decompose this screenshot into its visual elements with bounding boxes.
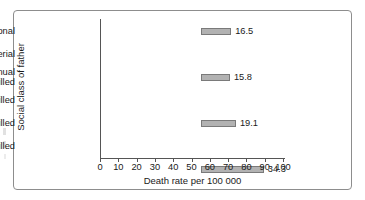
page-edge-artifact [4, 154, 6, 159]
bar [201, 28, 231, 35]
x-axis-line [100, 158, 285, 159]
bar-row: Managerial15.8 [100, 43, 284, 66]
bar-row: Professional16.5 [100, 20, 284, 43]
category-label: Unskilled [0, 141, 15, 152]
bar-row: Manual skilled34.3 [100, 89, 284, 112]
page-edge-artifact [3, 128, 6, 135]
category-label: Non-manual skilled [0, 67, 15, 88]
bar-row: Partly skilled37.8 [100, 112, 284, 135]
x-axis-title: Death rate per 100 000 [100, 175, 285, 186]
category-label: Manual skilled [0, 95, 15, 106]
category-label: Partly skilled [0, 118, 15, 129]
x-axis-tick-label: 100 [271, 162, 295, 173]
bar-row: Non-manual skilled19.1 [100, 66, 284, 89]
plot-area: Professional16.5Managerial15.8Non-manual… [100, 20, 284, 158]
figure: Social class of father Professional16.5M… [0, 0, 365, 200]
bar-row: Unskilled82.9 [100, 135, 284, 158]
bar-value-label: 16.5 [235, 26, 253, 36]
y-axis-title: Social class of father [15, 22, 27, 152]
category-label: Managerial [0, 49, 15, 60]
category-label: Professional [0, 26, 15, 37]
